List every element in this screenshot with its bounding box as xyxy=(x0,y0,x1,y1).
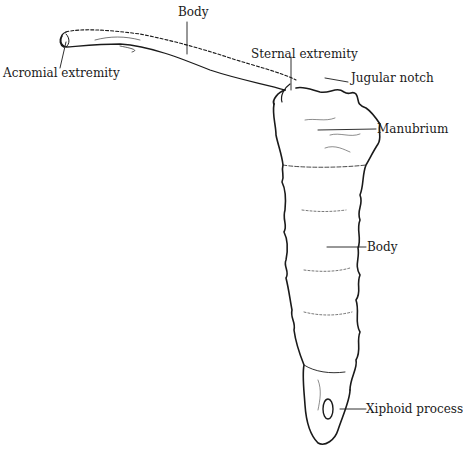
anatomy-diagram: Body Acromial extremity Sternal extremit… xyxy=(0,0,463,452)
label-acromial-extremity: Acromial extremity xyxy=(3,67,120,79)
label-clavicle-body: Body xyxy=(178,6,209,18)
label-sternal-extremity: Sternal extremity xyxy=(251,48,358,60)
label-jugular-notch: Jugular notch xyxy=(351,72,434,84)
label-xiphoid-process: Xiphoid process xyxy=(366,403,463,415)
sternum xyxy=(273,87,380,444)
label-manubrium: Manubrium xyxy=(377,123,448,135)
label-sternum-body: Body xyxy=(367,241,398,253)
leader-lines xyxy=(60,22,376,409)
